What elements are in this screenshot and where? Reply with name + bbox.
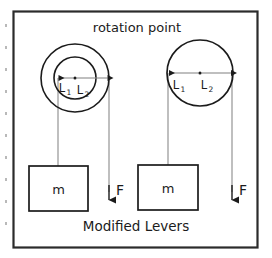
right-L2-label-letter: L [201,78,208,92]
right-force-label: F [239,182,247,198]
diagram-title: rotation point [93,20,181,35]
left-L1-label-subscript: 1 [67,88,72,97]
figure-root: L 1 L 2 m F L 1 [0,0,272,258]
right-mass-label: m [162,181,175,196]
diagram-caption: Modified Levers [83,218,189,234]
left-L1-label-letter: L [59,81,66,95]
lever-diagram-svg: L 1 L 2 m F L 1 [0,0,272,258]
right-L1-label-subscript: 1 [181,85,186,94]
left-L2-label-subscript: 2 [85,90,90,99]
right-L1-label-letter: L [173,78,180,92]
left-L2-label-letter: L [77,83,84,97]
left-force-label: F [116,182,124,198]
right-L2-label-subscript: 2 [209,85,214,94]
left-mass-label: m [52,182,65,197]
